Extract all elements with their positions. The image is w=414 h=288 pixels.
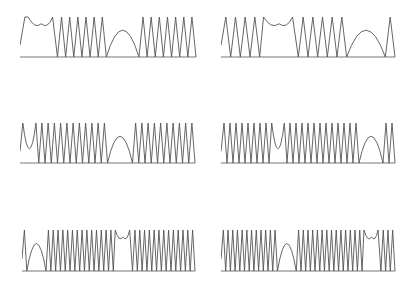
waveform-plot-4 xyxy=(221,122,397,165)
waveform-line xyxy=(221,123,395,163)
waveform-plot-5 xyxy=(22,229,197,273)
waveform-line xyxy=(22,230,195,271)
waveform-plot-6 xyxy=(221,229,397,273)
waveform-plot-3 xyxy=(20,122,197,165)
waveform-line xyxy=(221,17,395,57)
waveform-line xyxy=(20,123,195,163)
waveform-plot-2 xyxy=(221,16,397,59)
waveform-line xyxy=(221,230,395,271)
waveform-line xyxy=(20,17,196,57)
waveform-plot-1 xyxy=(20,16,198,59)
